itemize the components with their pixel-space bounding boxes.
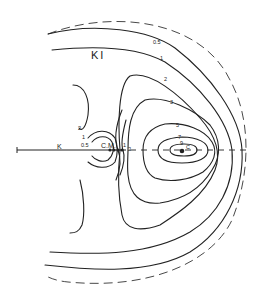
contour-diagram: KI K C.M. C 0.5 1 2 3 5 7 9 2 1 0.5 1 2 [0,0,259,293]
contour-2 [119,75,218,229]
contour-label-mid-1: 1 [123,142,126,148]
contour-plot-svg: KI K C.M. C 0.5 1 2 3 5 7 9 2 1 0.5 1 2 [0,0,259,293]
contour-label-2: 2 [164,76,167,82]
contour-5 [143,124,215,181]
contour-label-5: 5 [176,122,179,128]
diagram-title: KI [91,49,105,61]
contour-label-3: 3 [170,99,173,105]
cm-marker-dot [120,148,123,151]
outer-boundary-dashed [46,21,246,283]
contour-label-mid-2: 2 [128,146,131,152]
contour-0.5-outer [45,28,242,269]
contour-label-9: 9 [180,140,183,146]
c-marker [180,149,185,154]
contour-label-left-0.5: 0.5 [81,142,89,148]
contour-label-0.5: 0.5 [153,39,161,45]
c-marker-label: C [186,144,190,150]
contour-1-outer [50,48,232,254]
k-marker-label: K [57,143,62,150]
contour-label-left-2: 2 [78,125,81,131]
cm-marker-dot [116,148,119,151]
contour-2-left [73,85,88,129]
cm-marker-label: C.M. [101,142,116,149]
contour-2-left-lower [70,180,84,233]
contour-label-1: 1 [160,55,163,61]
contour-label-left-1: 1 [82,134,85,140]
